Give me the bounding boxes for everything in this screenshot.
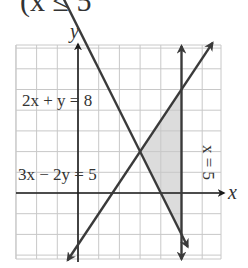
equation-label-1: 3x − 2y = 5 (18, 165, 97, 184)
equation-label-0: 2x + y = 8 (22, 91, 92, 110)
equation-label-2: x = 5 (199, 145, 218, 180)
x-axis-label: x (227, 181, 237, 203)
inequality-graph: x y 2x + y = 83x − 2y = 5x = 5 (0, 0, 248, 268)
